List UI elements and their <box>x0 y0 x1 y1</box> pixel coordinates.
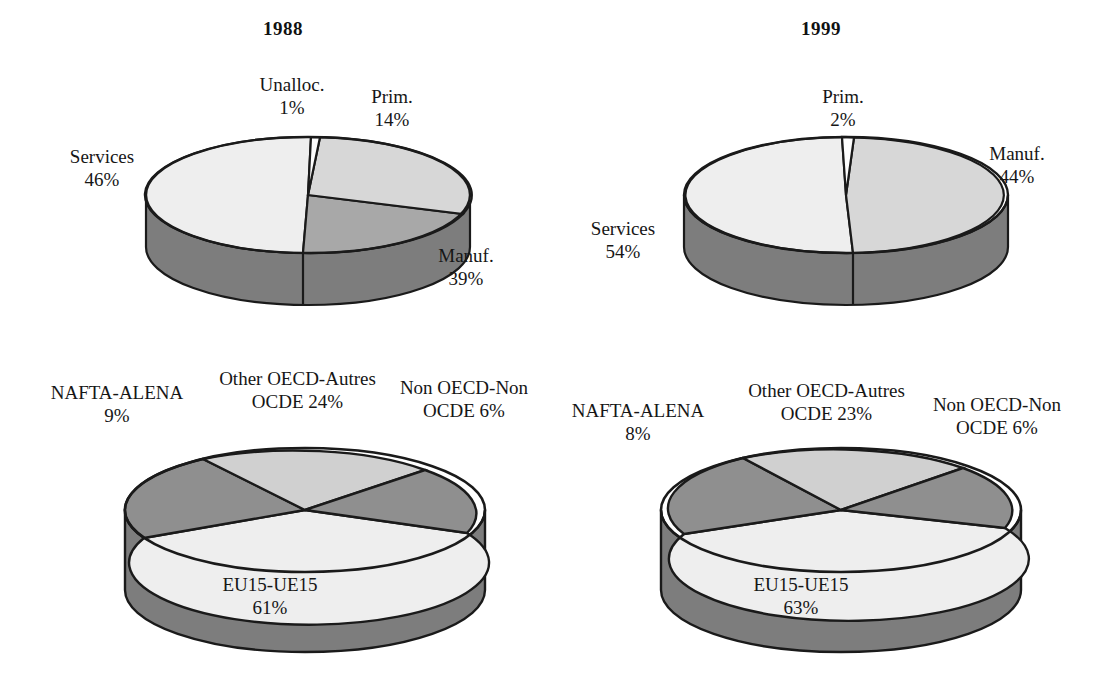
panel-bottom-right: NAFTA-ALENA 8% Other OECD-Autres OCDE 23… <box>551 340 1102 673</box>
label-line2: OCDE 23% <box>719 403 934 426</box>
label-manuf-1988: Manuf. 39% <box>420 245 512 291</box>
label-prim-1988: Prim. 14% <box>352 86 432 132</box>
label-line1: Other OECD-Autres <box>719 380 934 403</box>
label-line2: 1% <box>237 97 347 120</box>
pie-bottom-left <box>95 435 515 673</box>
label-line1: EU15-UE15 <box>721 574 881 597</box>
label-line2: OCDE 6% <box>911 417 1083 440</box>
label-line2: OCDE 24% <box>190 391 405 414</box>
label-line2: OCDE 6% <box>378 400 550 423</box>
label-other-oecd-br: Other OECD-Autres OCDE 23% <box>719 380 934 426</box>
label-eu15-bl: EU15-UE15 61% <box>190 574 350 620</box>
label-line2: 54% <box>571 241 675 264</box>
label-services-1988: Services 46% <box>50 146 154 192</box>
label-line2: 63% <box>721 597 881 620</box>
label-nafta-br: NAFTA-ALENA 8% <box>543 400 733 446</box>
label-line1: Other OECD-Autres <box>190 368 405 391</box>
label-line1: Manuf. <box>971 143 1063 166</box>
panel-bottom-left: NAFTA-ALENA 9% Other OECD-Autres OCDE 24… <box>0 340 551 673</box>
panel-title-1999: 1999 <box>771 18 871 40</box>
label-line1: NAFTA-ALENA <box>22 382 212 405</box>
label-line1: Unalloc. <box>237 74 347 97</box>
label-non-oecd-br: Non OECD-Non OCDE 6% <box>911 394 1083 440</box>
label-line2: 39% <box>420 268 512 291</box>
pie-bottom-right <box>631 435 1051 673</box>
label-line2: 46% <box>50 169 154 192</box>
label-line1: EU15-UE15 <box>190 574 350 597</box>
label-non-oecd-bl: Non OECD-Non OCDE 6% <box>378 377 550 423</box>
label-line1: Prim. <box>352 86 432 109</box>
label-manuf-1999: Manuf. 44% <box>971 143 1063 189</box>
label-line1: Non OECD-Non <box>378 377 550 400</box>
label-line1: NAFTA-ALENA <box>543 400 733 423</box>
panel-title-1988: 1988 <box>233 18 333 40</box>
label-nafta-bl: NAFTA-ALENA 9% <box>22 382 212 428</box>
label-line1: Services <box>50 146 154 169</box>
label-line2: 14% <box>352 109 432 132</box>
label-line1: Manuf. <box>420 245 512 268</box>
pie-1988 <box>108 110 508 330</box>
label-prim-1999: Prim. 2% <box>803 86 883 132</box>
label-line2: 2% <box>803 109 883 132</box>
panel-1988: 1988 <box>0 0 551 340</box>
label-eu15-br: EU15-UE15 63% <box>721 574 881 620</box>
label-other-oecd-bl: Other OECD-Autres OCDE 24% <box>190 368 405 414</box>
label-line2: 61% <box>190 597 350 620</box>
label-services-1999: Services 54% <box>571 218 675 264</box>
panel-1999: 1999 Prim. 2% Manuf. <box>551 0 1102 340</box>
label-line2: 44% <box>971 166 1063 189</box>
label-line2: 8% <box>543 423 733 446</box>
label-unalloc-1988: Unalloc. 1% <box>237 74 347 120</box>
label-line1: Services <box>571 218 675 241</box>
label-line2: 9% <box>22 405 212 428</box>
label-line1: Prim. <box>803 86 883 109</box>
pie-chart-figure: 1988 <box>0 0 1102 673</box>
label-line1: Non OECD-Non <box>911 394 1083 417</box>
